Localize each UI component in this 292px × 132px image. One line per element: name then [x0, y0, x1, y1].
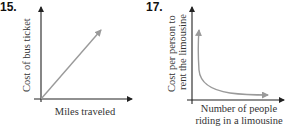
axes-17 [187, 7, 284, 104]
graphs-canvas [0, 0, 292, 132]
curve-17 [199, 70, 268, 95]
axes-15 [34, 7, 132, 102]
curve-17-upper [198, 30, 199, 70]
linear-line-15 [41, 30, 101, 99]
